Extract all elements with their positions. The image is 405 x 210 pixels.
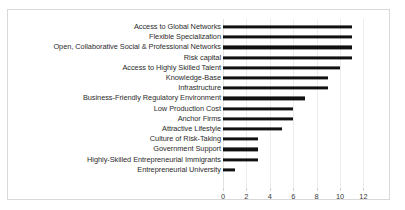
category-label: Culture of Risk-Taking bbox=[150, 135, 221, 143]
bar bbox=[223, 56, 352, 59]
bar-row: Attractive Lifestyle bbox=[8, 124, 389, 134]
bar-row: Infrastructure bbox=[8, 83, 389, 93]
category-label: Knowledge-Base bbox=[166, 74, 221, 82]
bar-row: Culture of Risk-Taking bbox=[8, 134, 389, 144]
bar-row: Risk capital bbox=[8, 53, 389, 63]
x-tick bbox=[340, 188, 341, 191]
bar bbox=[223, 168, 235, 171]
category-label: Low Production Cost bbox=[154, 105, 221, 113]
bar bbox=[223, 76, 328, 79]
x-tick bbox=[293, 188, 294, 191]
bar bbox=[223, 46, 352, 49]
category-label: Entrepreneurial University bbox=[137, 166, 221, 174]
bar-row: Open, Collaborative Social & Professiona… bbox=[8, 42, 389, 52]
category-label: Attractive Lifestyle bbox=[162, 125, 221, 133]
bar-rows: Access to Global NetworksFlexible Specia… bbox=[8, 22, 389, 175]
bar bbox=[223, 158, 258, 161]
bar-row: Entrepreneurial University bbox=[8, 165, 389, 175]
x-axis: 024681012 bbox=[8, 188, 389, 208]
bar bbox=[223, 117, 293, 120]
plot-area: Access to Global NetworksFlexible Specia… bbox=[8, 10, 389, 199]
bar-row: Access to Highly Skilled Talent bbox=[8, 63, 389, 73]
category-label: Access to Highly Skilled Talent bbox=[122, 64, 221, 72]
category-label: Highly-Skilled Entrepreneurial Immigrant… bbox=[87, 156, 221, 164]
bar-row: Anchor Firms bbox=[8, 114, 389, 124]
x-tick bbox=[223, 188, 224, 191]
bar-row: Flexible Specialization bbox=[8, 32, 389, 42]
x-tick-label: 6 bbox=[291, 192, 295, 201]
category-label: Anchor Firms bbox=[178, 115, 221, 123]
x-tick bbox=[363, 188, 364, 191]
bar-row: Highly-Skilled Entrepreneurial Immigrant… bbox=[8, 154, 389, 164]
bar-row: Low Production Cost bbox=[8, 104, 389, 114]
x-tick-label: 12 bbox=[359, 192, 367, 201]
bar bbox=[223, 107, 293, 110]
category-label: Flexible Specialization bbox=[149, 33, 221, 41]
category-label: Risk capital bbox=[184, 54, 221, 62]
bar bbox=[223, 97, 305, 100]
bar-row: Access to Global Networks bbox=[8, 22, 389, 32]
category-label: Business-Friendly Regulatory Environment bbox=[83, 94, 221, 102]
x-tick-label: 4 bbox=[268, 192, 272, 201]
bar bbox=[223, 26, 352, 29]
category-label: Government Support bbox=[153, 145, 221, 153]
bar bbox=[223, 148, 258, 151]
bar bbox=[223, 87, 328, 90]
category-label: Infrastructure bbox=[178, 84, 221, 92]
bar bbox=[223, 36, 352, 39]
bar-row: Knowledge-Base bbox=[8, 73, 389, 83]
bar bbox=[223, 138, 258, 141]
x-tick bbox=[270, 188, 271, 191]
chart-frame: Access to Global NetworksFlexible Specia… bbox=[7, 9, 390, 200]
category-label: Access to Global Networks bbox=[134, 23, 221, 31]
bar bbox=[223, 127, 282, 130]
bar bbox=[223, 66, 340, 69]
x-tick-label: 8 bbox=[315, 192, 319, 201]
bar-row: Government Support bbox=[8, 144, 389, 154]
x-tick bbox=[317, 188, 318, 191]
x-tick-label: 2 bbox=[244, 192, 248, 201]
x-tick-label: 0 bbox=[221, 192, 225, 201]
x-tick-label: 10 bbox=[336, 192, 344, 201]
bar-row: Business-Friendly Regulatory Environment bbox=[8, 93, 389, 103]
x-tick bbox=[246, 188, 247, 191]
category-label: Open, Collaborative Social & Professiona… bbox=[53, 43, 221, 51]
